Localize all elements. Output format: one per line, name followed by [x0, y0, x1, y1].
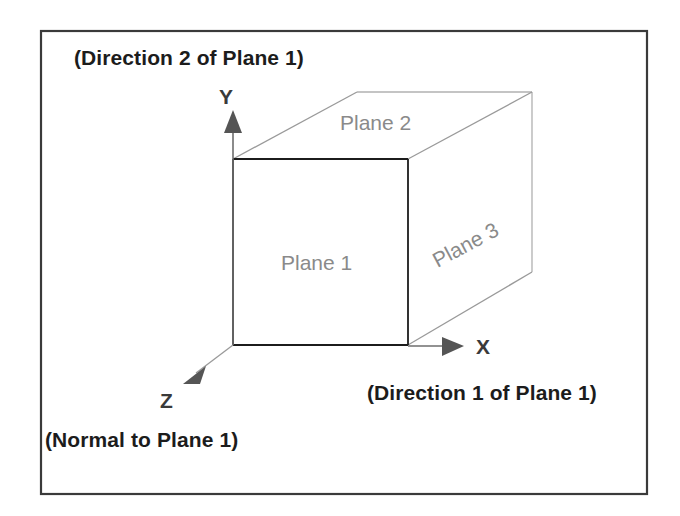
x-axis-arrowhead [442, 337, 464, 356]
y-axis [224, 110, 242, 345]
plane-2-label: Plane 2 [340, 112, 411, 133]
plane-1-label: Plane 1 [281, 252, 352, 273]
z-axis-arrowhead [183, 366, 206, 384]
z-axis-label: Z [160, 390, 173, 411]
x-axis-label: X [476, 336, 490, 357]
z-axis-annotation: (Normal to Plane 1) [45, 429, 238, 450]
y-axis-annotation: (Direction 2 of Plane 1) [74, 47, 304, 68]
diagram-root: (Direction 2 of Plane 1) Y Plane 2 Plane… [0, 0, 680, 516]
x-axis-annotation: (Direction 1 of Plane 1) [367, 382, 597, 403]
z-axis [183, 345, 233, 384]
y-axis-label: Y [219, 86, 233, 107]
y-axis-arrowhead [224, 110, 242, 133]
